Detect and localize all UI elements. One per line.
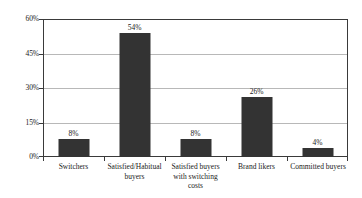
y-tick-label-45: 45%	[5, 50, 39, 58]
x-tick-mark-1	[104, 157, 105, 161]
bar-value-committed-buyers: 4%	[313, 138, 323, 147]
bar-slot-satisfied-buyers-switching-costs: 8%	[165, 19, 226, 157]
bar-value-switchers: 8%	[69, 129, 79, 138]
x-label-satisfied-buyers-switching-costs-line-1: with switching	[165, 172, 226, 182]
y-tick-label-15: 15%	[5, 119, 39, 127]
bar-committed-buyers[interactable]	[302, 148, 333, 157]
x-label-satisfied-buyers-switching-costs-line-2: costs	[165, 181, 226, 191]
bar-slot-committed-buyers: 4%	[287, 19, 348, 157]
x-label-switchers: Switchers	[43, 162, 104, 172]
x-tick-mark-3	[226, 157, 227, 161]
bar-value-satisfied-buyers-switching-costs: 8%	[191, 129, 201, 138]
bar-satisfied-habitual-buyers[interactable]	[119, 33, 150, 157]
y-tick-label-30: 30%	[5, 84, 39, 92]
x-axis-ticks	[43, 157, 348, 161]
x-tick-mark-2	[165, 157, 166, 161]
x-label-brand-likers-line-0: Brand likers	[226, 162, 287, 172]
x-label-committed-buyers: Committed buyers	[285, 162, 351, 172]
bar-slot-brand-likers: 26%	[226, 19, 287, 157]
y-axis: 60% 45% 30% 15% 0%	[0, 19, 39, 157]
bar-slot-switchers: 8%	[43, 19, 104, 157]
x-label-satisfied-buyers-switching-costs-line-0: Satisfied buyers	[165, 162, 226, 172]
x-label-brand-likers: Brand likers	[226, 162, 287, 172]
bar-brand-likers[interactable]	[241, 97, 272, 157]
bar-value-satisfied-habitual-buyers: 54%	[128, 23, 142, 32]
bar-value-brand-likers: 26%	[250, 87, 264, 96]
bar-switchers[interactable]	[58, 139, 89, 157]
x-label-satisfied-habitual-buyers: Satisfied/Habitual buyers	[101, 162, 168, 181]
y-tick-label-0: 0%	[5, 153, 39, 161]
x-axis-labels: Switchers Satisfied/Habitual buyers Sati…	[43, 162, 348, 196]
x-tick-mark-5	[347, 157, 348, 161]
x-tick-mark-4	[287, 157, 288, 161]
x-label-satisfied-buyers-switching-costs: Satisfied buyers with switching costs	[165, 162, 226, 191]
y-tick-label-60: 60%	[5, 15, 39, 23]
bar-slot-satisfied-habitual-buyers: 54%	[104, 19, 165, 157]
bars-layer: 8% 54% 8% 26% 4%	[43, 19, 348, 157]
bar-satisfied-buyers-switching-costs[interactable]	[180, 139, 211, 157]
x-label-satisfied-habitual-buyers-line-0: Satisfied/Habitual	[101, 162, 168, 172]
x-label-switchers-line-0: Switchers	[43, 162, 104, 172]
bar-chart: 60% 45% 30% 15% 0% 8% 54% 8% 26%	[0, 0, 362, 198]
x-label-committed-buyers-line-0: Committed buyers	[285, 162, 351, 172]
x-label-satisfied-habitual-buyers-line-1: buyers	[101, 172, 168, 182]
x-tick-mark-0	[43, 157, 44, 161]
